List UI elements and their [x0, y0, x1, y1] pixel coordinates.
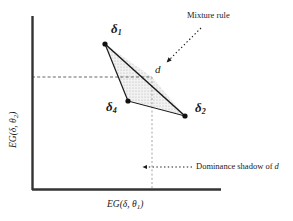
point-marker-delta1: [102, 41, 107, 46]
annotation-mixture-rule: Mixture rule: [187, 10, 230, 20]
point-label-delta1-subscript: 1: [118, 28, 122, 37]
point-marker-delta2: [182, 113, 187, 118]
y-axis-label-text: EG(δ, θ: [8, 118, 18, 148]
point-label-delta2-subscript: 2: [202, 107, 206, 116]
point-label-delta1: δ1: [111, 21, 122, 37]
mixture-rule-arrow: [167, 28, 201, 62]
figure-canvas: δ1 δ4 δ2 d Mixture rule Dominance shadow…: [0, 0, 293, 221]
point-label-d: d: [155, 63, 161, 75]
y-axis-label-close: ): [8, 112, 18, 115]
point-label-delta2-symbol: δ: [195, 100, 202, 115]
diagram-svg: [0, 0, 293, 221]
annotation-dominance-shadow: Dominance shadow of d: [196, 161, 279, 171]
y-axis-label-subscript: 2: [12, 115, 20, 119]
point-label-delta4: δ4: [106, 99, 117, 115]
point-label-delta4-subscript: 4: [113, 106, 117, 115]
point-label-delta1-symbol: δ: [111, 21, 118, 36]
x-axis-label: EG(δ, θ1): [107, 199, 143, 211]
x-axis-label-text: EG(δ, θ: [107, 199, 137, 209]
point-marker-delta4: [125, 98, 130, 103]
annotation-dominance-shadow-text: Dominance shadow of: [196, 161, 275, 171]
x-axis-label-close: ): [140, 199, 143, 209]
annotation-dominance-shadow-subject: d: [275, 161, 279, 171]
point-label-delta2: δ2: [195, 100, 206, 116]
point-label-delta4-symbol: δ: [106, 99, 113, 114]
y-axis-label: EG(δ, θ2): [8, 112, 20, 148]
